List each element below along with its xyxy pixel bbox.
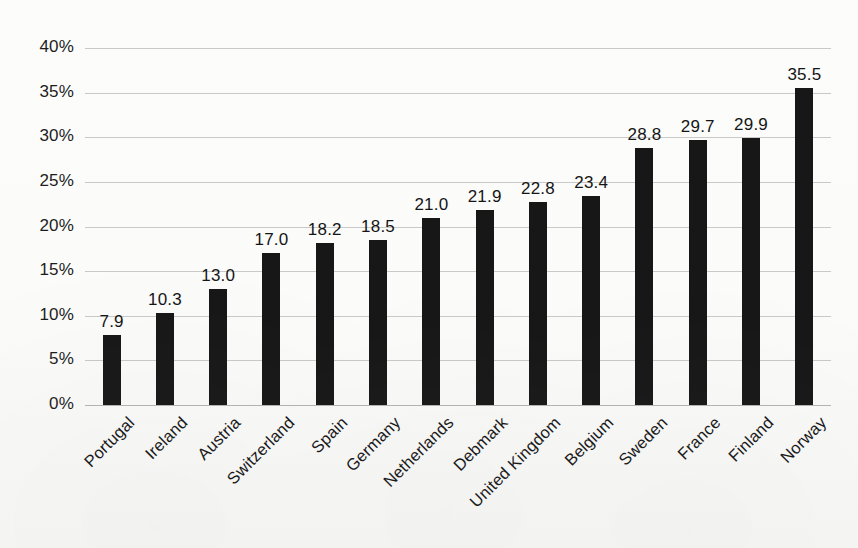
bar-group: 22.8: [511, 48, 564, 405]
y-axis-tick-label: 10%: [0, 305, 74, 325]
bar-value-label: 18.2: [308, 220, 342, 240]
bar-group: 23.4: [565, 48, 618, 405]
bar-group: 35.5: [778, 48, 831, 405]
bar[interactable]: [209, 289, 227, 405]
x-axis-tick-label: Ireland: [141, 413, 191, 463]
bar-value-label: 35.5: [787, 65, 821, 85]
bar-value-label: 17.0: [255, 230, 289, 250]
bar[interactable]: [476, 210, 494, 405]
y-axis-tick-label: 5%: [0, 349, 74, 369]
bar[interactable]: [742, 138, 760, 405]
x-axis-tick-label: Norway: [777, 413, 831, 467]
x-axis-tick-label: United Kingdom: [466, 413, 564, 511]
bar[interactable]: [316, 243, 334, 405]
x-axis-tick-label: Finland: [725, 413, 778, 466]
x-axis-tick-label: Austria: [194, 413, 245, 464]
bars-layer: 7.910.313.017.018.218.521.021.922.823.42…: [85, 48, 831, 405]
bar[interactable]: [635, 148, 653, 405]
y-axis-tick-label: 40%: [0, 37, 74, 57]
bar-group: 7.9: [85, 48, 138, 405]
x-axis-labels: PortugalIrelandAustriaSwitzerlandSpainGe…: [85, 405, 831, 548]
bar-group: 21.0: [405, 48, 458, 405]
x-axis-tick-label: France: [674, 413, 725, 464]
bar-group: 18.2: [298, 48, 351, 405]
y-axis-tick-label: 20%: [0, 216, 74, 236]
bar-value-label: 22.8: [521, 179, 555, 199]
x-axis-tick-label: Belgium: [561, 413, 618, 470]
bar[interactable]: [422, 218, 440, 405]
bar-chart: 0%5%10%15%20%25%30%35%40% 7.910.313.017.…: [0, 0, 858, 548]
bar[interactable]: [529, 202, 547, 405]
bar-value-label: 23.4: [574, 173, 608, 193]
bar[interactable]: [262, 253, 280, 405]
bar[interactable]: [795, 88, 813, 405]
y-axis-tick-label: 35%: [0, 82, 74, 102]
y-axis-tick-label: 30%: [0, 126, 74, 146]
y-axis-tick-label: 15%: [0, 260, 74, 280]
bar-value-label: 7.9: [100, 312, 124, 332]
bar-value-label: 10.3: [148, 290, 182, 310]
bar-value-label: 18.5: [361, 217, 395, 237]
bar[interactable]: [689, 140, 707, 405]
bar[interactable]: [369, 240, 387, 405]
bar-group: 10.3: [138, 48, 191, 405]
bar-value-label: 29.9: [734, 115, 768, 135]
bar-value-label: 21.9: [468, 187, 502, 207]
y-axis-labels: 0%5%10%15%20%25%30%35%40%: [0, 0, 78, 548]
y-axis-tick-label: 25%: [0, 171, 74, 191]
y-axis-tick-label: 0%: [0, 394, 74, 414]
bar-group: 29.7: [671, 48, 724, 405]
bar-value-label: 21.0: [414, 195, 448, 215]
x-axis-tick-label: Spain: [307, 413, 351, 457]
bar[interactable]: [156, 313, 174, 405]
bar-value-label: 29.7: [681, 117, 715, 137]
bar-group: 18.5: [351, 48, 404, 405]
x-axis-tick-label: Sweden: [614, 413, 670, 469]
bar-value-label: 13.0: [201, 266, 235, 286]
x-axis-tick-label: Portugal: [80, 413, 138, 471]
bar-group: 28.8: [618, 48, 671, 405]
bar-group: 29.9: [724, 48, 777, 405]
bar-group: 21.9: [458, 48, 511, 405]
bar-group: 17.0: [245, 48, 298, 405]
bar[interactable]: [582, 196, 600, 405]
bar-value-label: 28.8: [628, 125, 662, 145]
bar[interactable]: [103, 335, 121, 406]
bar-group: 13.0: [192, 48, 245, 405]
